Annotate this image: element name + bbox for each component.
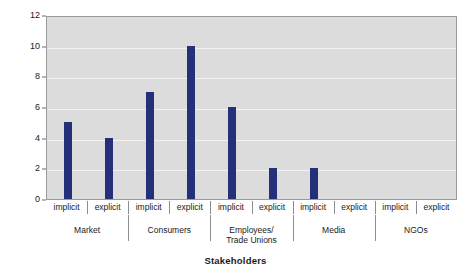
y-axis: 024681012 — [28, 16, 46, 200]
bar-slot — [170, 17, 211, 199]
group-separator — [375, 215, 376, 241]
y-axis-tick-label: 10 — [30, 40, 40, 50]
y-axis-tick: 12 — [28, 16, 46, 17]
y-axis-tick-label: 0 — [35, 194, 40, 204]
bar — [228, 107, 236, 199]
bar — [105, 138, 113, 199]
x-axis-tick-label: implicit — [375, 200, 416, 215]
bar-slot — [253, 17, 294, 199]
y-axis-tick: 4 — [28, 138, 46, 139]
x-axis-tick-label: implicit — [293, 200, 334, 215]
tick-separator — [87, 201, 88, 214]
x-axis-group-label: NGOs — [375, 225, 457, 235]
y-axis-tick: 10 — [28, 46, 46, 47]
bar-slot — [211, 17, 252, 199]
x-axis-group-label: Media — [293, 225, 375, 235]
x-axis-tick-label: explicit — [87, 200, 128, 215]
x-axis-tick-label: explicit — [252, 200, 293, 215]
x-axis-tick-label: implicit — [46, 200, 87, 215]
bar-slot — [47, 17, 88, 199]
bar-chart: Frequency 024681012 implicitexplicitimpl… — [0, 0, 471, 275]
y-axis-tick-label: 2 — [35, 163, 40, 173]
x-axis-title: Stakeholders — [0, 255, 471, 266]
group-separator — [293, 215, 294, 241]
bar — [269, 168, 277, 199]
x-axis-group-label: Employees/ Trade Unions — [210, 225, 292, 245]
x-axis-tick-label: explicit — [334, 200, 375, 215]
group-separator — [210, 215, 211, 241]
bar-slot — [417, 17, 458, 199]
y-axis-tick: 8 — [28, 77, 46, 78]
x-axis-tick-labels: implicitexplicitimplicitexplicitimplicit… — [46, 200, 457, 215]
tick-separator — [210, 201, 211, 214]
bar-slot — [129, 17, 170, 199]
x-axis-group-label: Market — [46, 225, 128, 235]
x-axis-tick-label: implicit — [210, 200, 251, 215]
y-axis-tick: 6 — [28, 108, 46, 109]
bar — [64, 122, 72, 199]
y-axis-tick-label: 8 — [35, 71, 40, 81]
plot-area — [46, 16, 457, 200]
x-axis-tick-label: explicit — [169, 200, 210, 215]
tick-separator — [169, 201, 170, 214]
tick-separator — [128, 201, 129, 214]
y-axis-tick-label: 6 — [35, 102, 40, 112]
bar — [187, 46, 195, 199]
tick-separator — [416, 201, 417, 214]
bar-slot — [376, 17, 417, 199]
bar — [146, 92, 154, 199]
x-axis-tick-label: implicit — [128, 200, 169, 215]
y-axis-tick-label: 4 — [35, 132, 40, 142]
y-axis-tick: 0 — [28, 200, 46, 201]
tick-separator — [334, 201, 335, 214]
y-axis-tick: 2 — [28, 169, 46, 170]
x-axis-group-label: Consumers — [128, 225, 210, 235]
bar-slot — [335, 17, 376, 199]
tick-separator — [375, 201, 376, 214]
tick-separator — [293, 201, 294, 214]
bar — [310, 168, 318, 199]
bar-slot — [294, 17, 335, 199]
y-axis-tick-label: 12 — [30, 10, 40, 20]
bar-series — [47, 17, 456, 199]
group-separator — [128, 215, 129, 241]
x-axis-group-labels: MarketConsumersEmployees/ Trade UnionsMe… — [46, 215, 457, 251]
x-axis-tick-label: explicit — [416, 200, 457, 215]
tick-separator — [252, 201, 253, 214]
bar-slot — [88, 17, 129, 199]
